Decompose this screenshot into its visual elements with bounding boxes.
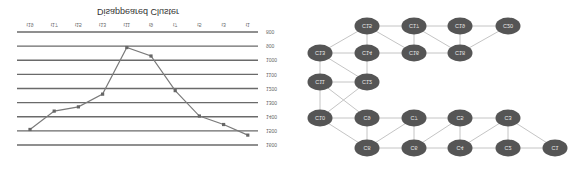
node-label: C4	[456, 145, 463, 151]
flipped-figure: 8009001000110012001300140015001600 t19t1…	[0, 0, 585, 169]
node-label: C6	[410, 145, 417, 151]
node-label: C19	[455, 23, 465, 29]
cluster-graph: C15C17C19C20C13C14C16C18C11C12C10C9C7C5C…	[0, 0, 585, 169]
node-c20: C20	[496, 18, 521, 35]
node-c13: C13	[308, 45, 333, 62]
node-c11: C11	[308, 74, 333, 91]
node-c2: C2	[496, 140, 521, 157]
node-label: C14	[362, 50, 372, 56]
node-c19: C19	[448, 18, 473, 35]
node-label: C5	[456, 115, 463, 121]
node-label: C8	[363, 145, 370, 151]
node-label: C13	[315, 50, 325, 56]
node-c7: C7	[402, 110, 427, 127]
node-c15: C15	[355, 18, 380, 35]
node-label: C18	[455, 50, 465, 56]
node-label: C16	[409, 50, 419, 56]
graph-nodes: C15C17C19C20C13C14C16C18C11C12C10C9C7C5C…	[308, 18, 568, 157]
node-label: C9	[363, 115, 370, 121]
node-c17: C17	[402, 18, 427, 35]
node-label: C15	[362, 23, 372, 29]
node-label: C11	[315, 79, 325, 85]
node-c16: C16	[402, 45, 427, 62]
node-label: C12	[362, 79, 372, 85]
node-label: C20	[503, 23, 513, 29]
node-label: C3	[504, 115, 511, 121]
node-c3: C3	[496, 110, 521, 127]
node-label: C1	[551, 145, 558, 151]
node-label: C7	[410, 115, 417, 121]
node-label: C17	[409, 23, 419, 29]
node-c1: C1	[543, 140, 568, 157]
node-c14: C14	[355, 45, 380, 62]
node-c18: C18	[448, 45, 473, 62]
node-label: C2	[504, 145, 511, 151]
node-c10: C10	[308, 110, 333, 127]
node-c8: C8	[355, 140, 380, 157]
node-c6: C6	[402, 140, 427, 157]
node-c5: C5	[448, 110, 473, 127]
node-label: C10	[315, 115, 325, 121]
node-c4: C4	[448, 140, 473, 157]
node-c9: C9	[355, 110, 380, 127]
node-c12: C12	[355, 74, 380, 91]
graph-edges	[320, 26, 555, 148]
